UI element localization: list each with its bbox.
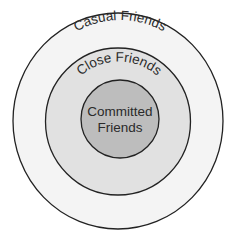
committed-label-line2: Friends — [97, 120, 142, 135]
inner-circle-committed — [81, 80, 159, 158]
friendship-circles-diagram: Casual Friends Close Friends Committed F… — [0, 0, 234, 239]
committed-label-line1: Committed — [87, 104, 152, 119]
